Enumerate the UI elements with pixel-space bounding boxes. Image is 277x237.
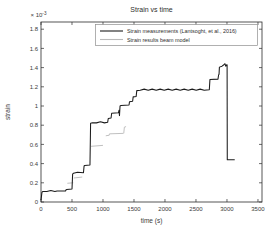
legend-label-measurements: Strain measurements (Lantsoght, et al., … [127,28,237,34]
x-tick-label: 0 [39,206,43,212]
x-tick-label: 1000 [96,206,110,212]
y-tick-label: 0.4 [30,161,39,167]
plot-box [41,22,262,202]
y-tick-label: 0.2 [30,180,39,186]
x-tick-label: 2500 [189,206,203,212]
y-tick-label: 1.4 [30,65,39,71]
x-tick-label: 3500 [251,206,265,212]
plot-area: 050010001500200025003000350000.20.40.60.… [30,22,266,212]
strain-chart: Strain vs time × 10-3 050010001500200025… [0,0,277,237]
y-axis-multiplier-exponent: -3 [42,11,47,16]
chart-title: Strain vs time [130,6,173,13]
y-tick-label: 0.6 [30,142,39,148]
legend: Strain measurements (Lantsoght, et al., … [96,25,258,46]
x-tick-label: 500 [67,206,78,212]
x-tick-label: 3000 [220,206,234,212]
x-axis-label: time (s) [141,217,163,225]
y-axis-multiplier: × 10-3 [31,11,47,18]
y-tick-label: 0.8 [30,122,39,128]
y-tick-label: 1.8 [30,26,39,32]
y-tick-label: 1.2 [30,84,39,90]
figure-window: Strain vs time × 10-3 050010001500200025… [0,0,277,237]
y-tick-label: 1 [35,103,39,109]
y-tick-label: 1.6 [30,46,39,52]
x-tick-label: 2000 [158,206,172,212]
y-axis-label: strain [4,104,11,120]
legend-label-beam-model: Strain results beam model [127,37,190,43]
x-tick-label: 1500 [127,206,141,212]
y-tick-label: 0 [35,199,39,205]
y-axis-multiplier-base: × 10 [31,12,44,18]
